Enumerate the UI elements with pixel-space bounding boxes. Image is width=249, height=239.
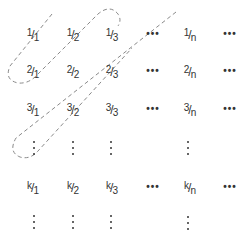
fraction-2-n: 2/n	[184, 66, 196, 78]
fraction-1-2: 1/2	[67, 29, 79, 41]
fraction-k-1: k/1	[27, 182, 39, 194]
fraction-1-3: 1/3	[106, 29, 118, 41]
fraction-2-3: 2/3	[106, 66, 118, 78]
horizontal-ellipsis: •••	[146, 29, 160, 39]
horizontal-ellipsis: •••	[223, 104, 237, 114]
vertical-ellipsis	[187, 141, 189, 155]
fraction-3-n: 3/n	[184, 104, 196, 116]
vertical-ellipsis	[187, 216, 189, 230]
horizontal-ellipsis: •••	[146, 182, 160, 192]
vertical-ellipsis	[110, 215, 112, 229]
fraction-3-3: 3/3	[106, 104, 118, 116]
fraction-k-2: k/2	[67, 182, 79, 194]
fraction-k-n: k/n	[184, 182, 196, 194]
horizontal-ellipsis: •••	[223, 182, 237, 192]
fraction-1-n: 1/n	[184, 29, 196, 41]
vertical-ellipsis	[33, 215, 35, 229]
fraction-3-2: 3/2	[67, 104, 79, 116]
fraction-k-3: k/3	[106, 182, 118, 194]
horizontal-ellipsis: •••	[146, 104, 160, 114]
vertical-ellipsis	[72, 215, 74, 229]
diagonal-loop-1	[8, 9, 120, 83]
fraction-1-1: 1/1	[27, 29, 39, 41]
vertical-ellipsis	[72, 141, 74, 155]
vertical-ellipsis	[33, 141, 35, 155]
horizontal-ellipsis: •••	[223, 66, 237, 76]
vertical-ellipsis	[110, 141, 112, 155]
fraction-3-1: 3/1	[27, 104, 39, 116]
horizontal-ellipsis: •••	[146, 66, 160, 76]
horizontal-ellipsis: •••	[223, 29, 237, 39]
fraction-2-2: 2/2	[67, 66, 79, 78]
fraction-2-1: 2/1	[27, 66, 39, 78]
